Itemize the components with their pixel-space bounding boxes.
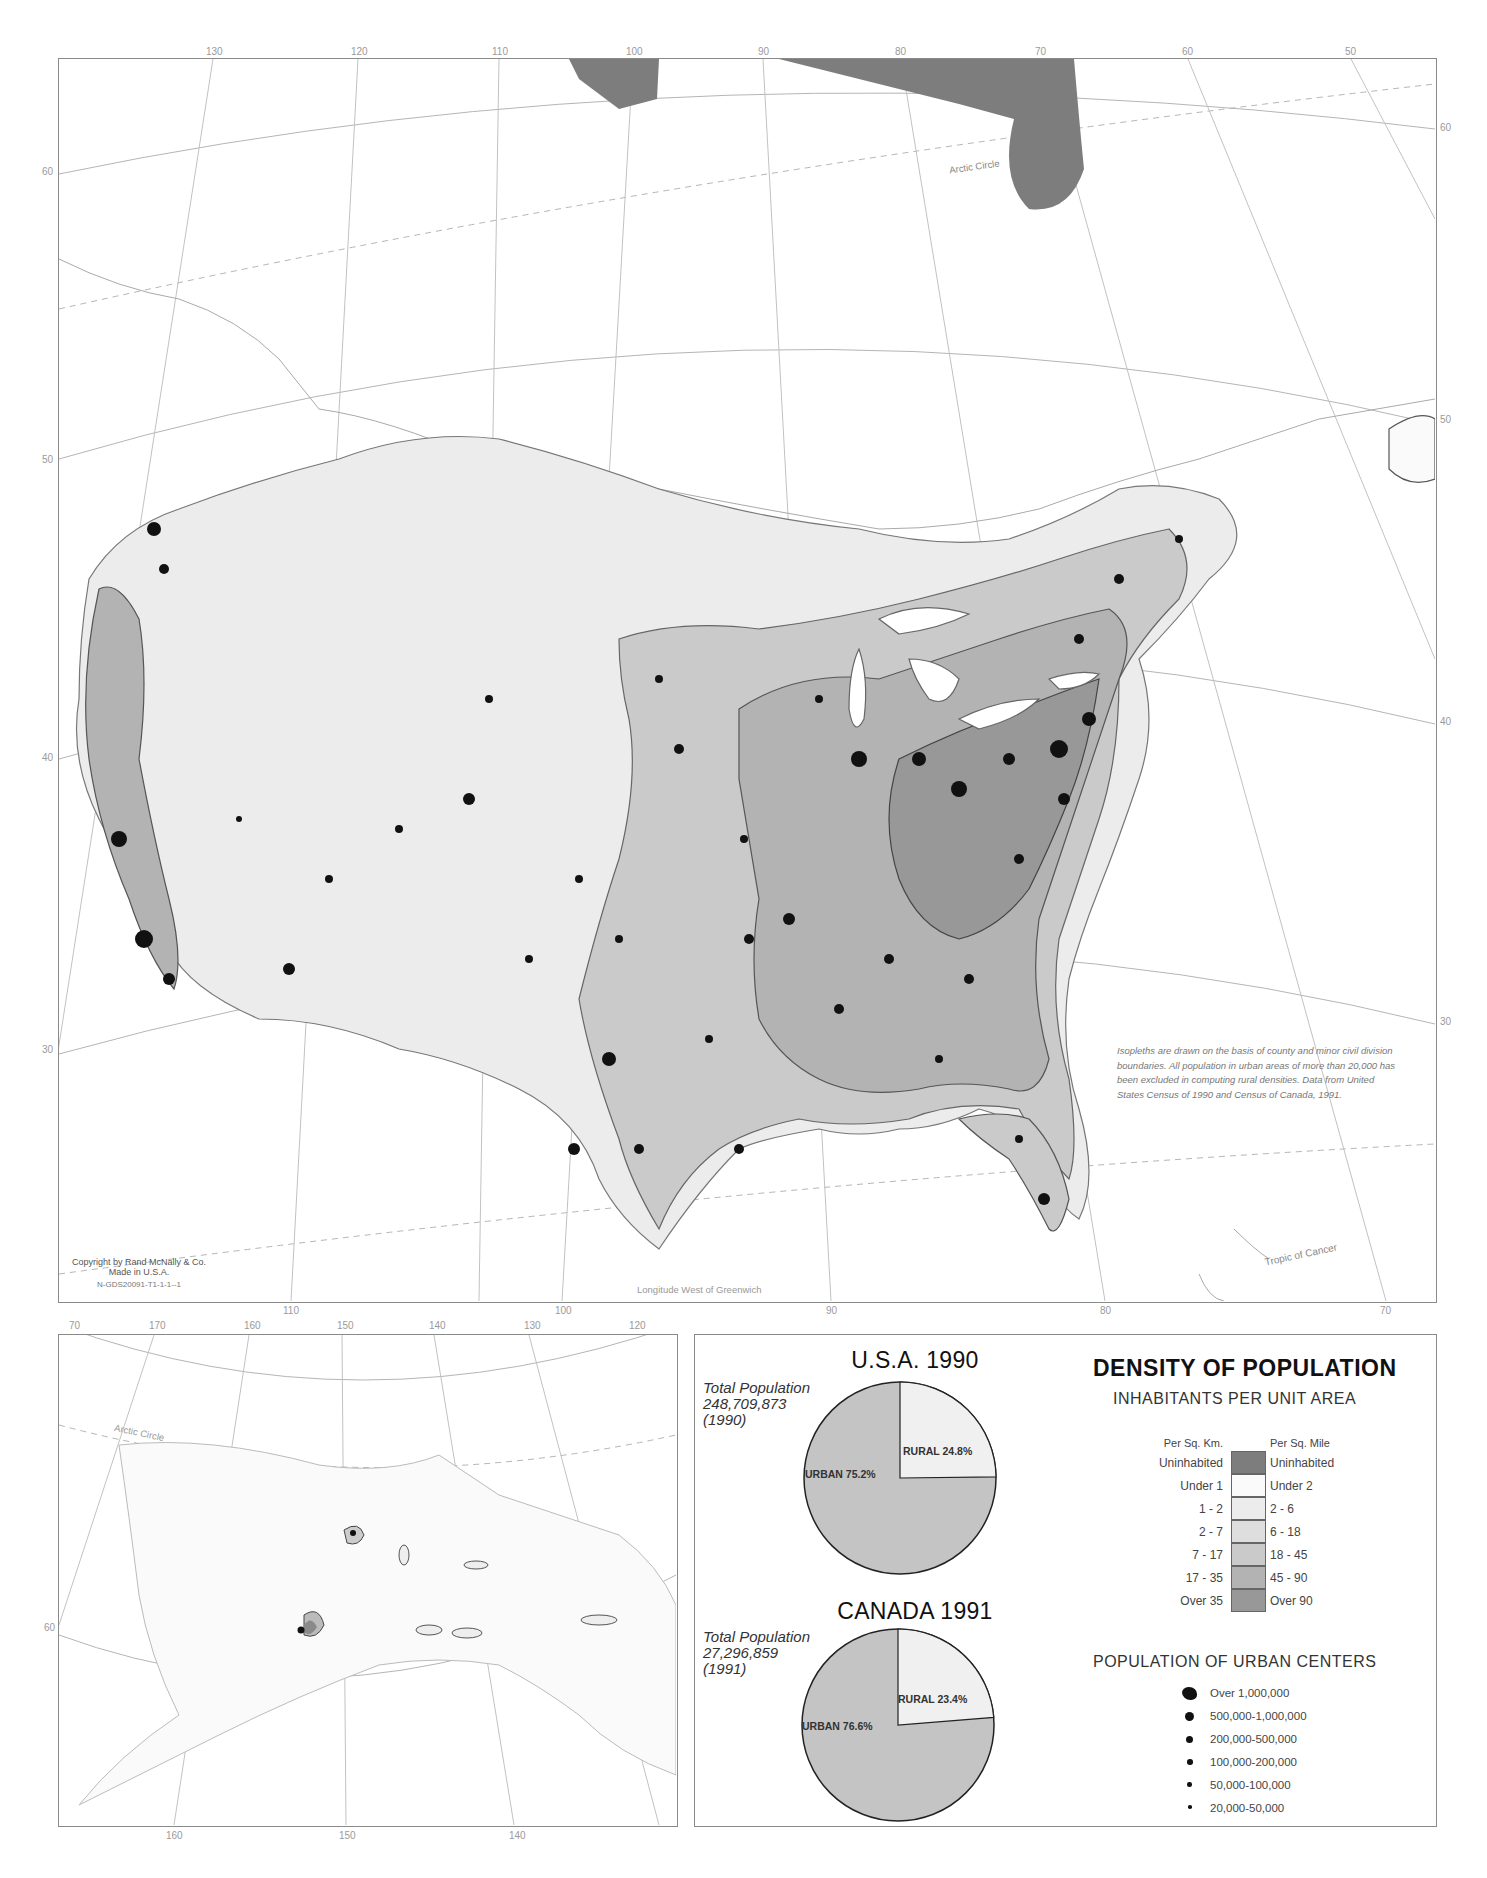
urban-symbol-100k-200k xyxy=(1187,1759,1193,1765)
lon-tick: 150 xyxy=(337,1320,354,1331)
legend-mile-label: 6 - 18 xyxy=(1270,1525,1301,1539)
lon-tick: 80 xyxy=(895,46,906,57)
lon-tick: 130 xyxy=(524,1320,541,1331)
legend-swatch-over-35 xyxy=(1231,1589,1266,1612)
copyright-block: Copyright by Rand McNally & Co. Made in … xyxy=(59,1257,219,1290)
urban-class-label: 100,000-200,000 xyxy=(1210,1756,1297,1768)
alaska-inset-frame: Arctic Circle xyxy=(58,1334,678,1827)
urban-class-label: 200,000-500,000 xyxy=(1210,1733,1297,1745)
made-in-line: Made in U.S.A. xyxy=(59,1267,219,1277)
legend-km-label: 1 - 2 xyxy=(1128,1502,1223,1516)
legend-swatch-uninhabited xyxy=(1231,1451,1266,1474)
map-note: Isopleths are drawn on the basis of coun… xyxy=(1117,1044,1402,1102)
usa-urban-label: URBAN 75.2% xyxy=(805,1468,876,1480)
canada-urban-label: URBAN 76.6% xyxy=(802,1720,873,1732)
parallel-50 xyxy=(59,349,1435,459)
legend-mile-label: 2 - 6 xyxy=(1270,1502,1294,1516)
legend-mile-label: 18 - 45 xyxy=(1270,1548,1307,1562)
lon-tick: 90 xyxy=(758,46,769,57)
legend-km-label: 17 - 35 xyxy=(1128,1571,1223,1585)
urban-center-fairbanks xyxy=(350,1530,356,1536)
usa-total-year: (1990) xyxy=(703,1412,813,1428)
legend-col-km: Per Sq. Km. xyxy=(1128,1437,1223,1449)
lat-tick: 60 xyxy=(1440,122,1451,133)
legend-title: DENSITY OF POPULATION xyxy=(1093,1355,1397,1382)
lon-tick: 100 xyxy=(555,1305,572,1316)
lon-tick: 50 xyxy=(1345,46,1356,57)
legend-col-mile: Per Sq. Mile xyxy=(1270,1437,1330,1449)
newfoundland xyxy=(1389,416,1435,483)
canada-rural-slice xyxy=(898,1629,994,1725)
copyright-line: Copyright by Rand McNally & Co. xyxy=(59,1257,219,1267)
canada-total-label: Total Population xyxy=(703,1629,813,1645)
urban-class-label: 50,000-100,000 xyxy=(1210,1779,1291,1791)
lon-tick: 160 xyxy=(166,1830,183,1841)
urban-symbol-500k-1m xyxy=(1185,1712,1194,1721)
canada-total-population: Total Population 27,296,859 (1991) xyxy=(703,1629,813,1677)
lat-tick: 50 xyxy=(1440,414,1451,425)
lat-tick: 30 xyxy=(1440,1016,1451,1027)
legend-km-label: Uninhabited xyxy=(1128,1456,1223,1470)
legend-mile-label: 45 - 90 xyxy=(1270,1571,1307,1585)
map-code: N-GDS20091-T1-1-1--1 xyxy=(59,1280,219,1290)
urban-symbol-over-1m xyxy=(1182,1687,1197,1700)
canada-total-year: (1991) xyxy=(703,1661,813,1677)
lon-tick: 100 xyxy=(626,46,643,57)
canada-rural-label: RURAL 23.4% xyxy=(898,1693,967,1705)
legend-swatch-17-35 xyxy=(1231,1566,1266,1589)
lon-tick: 140 xyxy=(429,1320,446,1331)
lon-tick: 60 xyxy=(1182,46,1193,57)
tropic-of-cancer-line xyxy=(59,1144,1435,1274)
legend-km-label: Under 1 xyxy=(1128,1479,1223,1493)
longitude-caption: Longitude West of Greenwich xyxy=(637,1284,761,1295)
lon-tick: 140 xyxy=(509,1830,526,1841)
lat-tick: 40 xyxy=(1440,716,1451,727)
legend-mile-label: Under 2 xyxy=(1270,1479,1313,1493)
lat-tick: 60 xyxy=(42,166,53,177)
legend-mile-label: Over 90 xyxy=(1270,1594,1313,1608)
parallel-60 xyxy=(59,93,1435,174)
urban-class-label: 20,000-50,000 xyxy=(1210,1802,1284,1814)
urban-legend-title: POPULATION OF URBAN CENTERS xyxy=(1093,1653,1376,1671)
usa-pie-title: U.S.A. 1990 xyxy=(815,1347,1015,1374)
alaska-lat-tick: 60 xyxy=(44,1622,55,1633)
usa-rural-label: RURAL 24.8% xyxy=(903,1445,972,1457)
legend-swatch-7-17 xyxy=(1231,1543,1266,1566)
lon-tick: 70 xyxy=(69,1320,80,1331)
legend-subtitle: INHABITANTS PER UNIT AREA xyxy=(1113,1390,1356,1408)
canada-total-value: 27,296,859 xyxy=(703,1645,813,1661)
legend-swatch-under-1 xyxy=(1231,1474,1266,1497)
lon-tick: 160 xyxy=(244,1320,261,1331)
urban-symbol-50k-100k xyxy=(1187,1782,1192,1787)
lon-tick: 90 xyxy=(826,1305,837,1316)
legend-swatch-1-2 xyxy=(1231,1497,1266,1520)
main-map-frame: Arctic Circle Tropic of Cancer Longitude… xyxy=(58,58,1437,1303)
water-body-north xyxy=(569,59,659,109)
legend-mile-label: Uninhabited xyxy=(1270,1456,1334,1470)
lon-tick: 110 xyxy=(492,46,508,57)
usa-total-population: Total Population 248,709,873 (1990) xyxy=(703,1380,813,1428)
legend-km-label: 2 - 7 xyxy=(1128,1525,1223,1539)
usa-total-label: Total Population xyxy=(703,1380,813,1396)
lon-tick: 70 xyxy=(1380,1305,1391,1316)
urban-symbol-20k-50k xyxy=(1188,1805,1192,1809)
urban-center-anchorage xyxy=(298,1627,305,1634)
canada-pie-title: CANADA 1991 xyxy=(815,1598,1015,1625)
lat-tick: 30 xyxy=(42,1044,53,1055)
urban-class-label: Over 1,000,000 xyxy=(1210,1687,1289,1699)
lon-tick: 120 xyxy=(629,1320,646,1331)
legend-swatch-2-7 xyxy=(1231,1520,1266,1543)
lon-tick: 70 xyxy=(1035,46,1046,57)
main-map-canvas xyxy=(59,59,1435,1301)
caribbean-islands xyxy=(1199,1229,1269,1301)
hudson-bay xyxy=(779,59,1084,210)
legend-km-label: 7 - 17 xyxy=(1128,1548,1223,1562)
usa-total-value: 248,709,873 xyxy=(703,1396,813,1412)
lon-tick: 170 xyxy=(149,1320,166,1331)
urban-class-label: 500,000-1,000,000 xyxy=(1210,1710,1307,1722)
arctic-circle-line xyxy=(59,84,1435,309)
lon-tick: 150 xyxy=(339,1830,356,1841)
legend-km-label: Over 35 xyxy=(1128,1594,1223,1608)
lat-tick: 40 xyxy=(42,752,53,763)
lon-tick: 130 xyxy=(206,46,223,57)
